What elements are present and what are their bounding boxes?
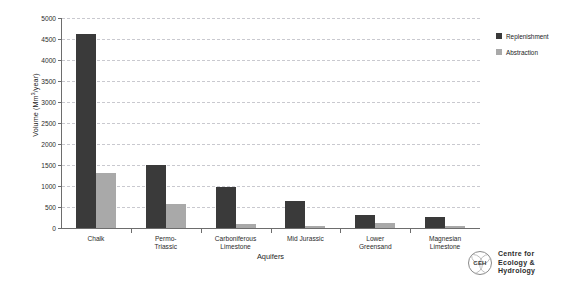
- gridline: [62, 39, 480, 40]
- x-axis-tick-mark: [410, 228, 411, 233]
- gridline: [62, 165, 480, 166]
- legend-item[interactable]: Replenishment: [496, 32, 566, 40]
- legend-swatch-icon: [496, 33, 502, 39]
- y-axis-tick-mark: [58, 102, 62, 103]
- bar-abstraction: [375, 223, 395, 228]
- bar-replenishment: [425, 217, 445, 228]
- bar-group: [355, 18, 395, 228]
- y-axis-tick-label: 2500: [41, 120, 56, 127]
- y-axis-tick-mark: [58, 207, 62, 208]
- gridline: [62, 18, 480, 19]
- gridline: [62, 186, 480, 187]
- x-axis-category-label-line: Carboniferous: [201, 235, 271, 243]
- y-axis-title-prefix: Volume (Mm: [31, 95, 40, 136]
- gridline: [62, 60, 480, 61]
- bar-abstraction: [166, 204, 186, 228]
- y-axis-tick-mark: [58, 39, 62, 40]
- bar-abstraction: [305, 226, 325, 228]
- x-axis-category-label: CarboniferousLimestone: [201, 235, 271, 252]
- bar-replenishment: [216, 187, 236, 228]
- y-axis-tick-mark: [58, 123, 62, 124]
- y-axis-tick-label: 3500: [41, 78, 56, 85]
- ceh-logo: CEH Centre for Ecology & Hydrology: [468, 250, 535, 276]
- y-axis-tick-mark: [58, 81, 62, 82]
- x-axis-tick-mark: [131, 228, 132, 233]
- y-axis-tick-mark: [58, 186, 62, 187]
- y-axis-tick-mark: [58, 165, 62, 166]
- x-axis-category-label-line: Permo-: [131, 235, 201, 243]
- legend-swatch-icon: [496, 49, 502, 55]
- gridline: [62, 81, 480, 82]
- y-axis-title-suffix: /year): [31, 73, 40, 92]
- ceh-logo-mark-icon: CEH: [468, 251, 492, 275]
- x-axis-category-label: LowerGreensand: [340, 235, 410, 252]
- x-axis-category-label-line: Magnesian: [410, 235, 480, 243]
- x-axis-category-label-line: Triassic: [131, 243, 201, 251]
- bar-group: [285, 18, 325, 228]
- y-axis-tick-mark: [58, 60, 62, 61]
- x-axis-category-label-line: Chalk: [61, 235, 131, 243]
- gridline: [62, 144, 480, 145]
- x-axis-category-label-line: Limestone: [201, 243, 271, 251]
- ceh-logo-line-1: Centre for: [498, 250, 535, 259]
- y-axis-tick-label: 4000: [41, 57, 56, 64]
- legend-item-label: Abstraction: [506, 49, 538, 56]
- bar-group: [146, 18, 186, 228]
- bar-replenishment: [285, 201, 305, 228]
- bar-replenishment: [76, 34, 96, 228]
- ceh-logo-wordmark: Centre for Ecology & Hydrology: [498, 250, 535, 276]
- y-axis-tick-mark: [58, 228, 62, 229]
- y-axis-tick-label: 3000: [41, 99, 56, 106]
- legend-item[interactable]: Abstraction: [496, 48, 566, 56]
- bar-replenishment: [146, 165, 166, 228]
- gridline: [62, 207, 480, 208]
- y-axis-tick-label: 500: [45, 204, 56, 211]
- x-axis-category-label-line: Greensand: [340, 243, 410, 251]
- x-axis-category-label: Permo-Triassic: [131, 235, 201, 252]
- x-axis-category-label-line: Lower: [340, 235, 410, 243]
- ceh-logo-line-3: Hydrology: [498, 267, 535, 276]
- bar-group: [216, 18, 256, 228]
- x-axis-category-label: Mid Jurassic: [271, 235, 341, 243]
- ceh-logo-line-2: Ecology &: [498, 259, 535, 268]
- bar-abstraction: [445, 226, 465, 228]
- chart-figure: Volume (Mm3/year) 0500100015002000250030…: [0, 0, 567, 286]
- x-axis-category-label-line: Mid Jurassic: [271, 235, 341, 243]
- gridline: [62, 102, 480, 103]
- x-axis-tick-mark: [201, 228, 202, 233]
- bar-replenishment: [355, 215, 375, 228]
- y-axis-tick-label: 1000: [41, 183, 56, 190]
- y-axis-tick-label: 2000: [41, 141, 56, 148]
- bar-abstraction: [96, 173, 116, 228]
- y-axis-title-superscript: 3: [30, 92, 36, 95]
- x-axis-category-label: Chalk: [61, 235, 131, 243]
- gridline: [62, 123, 480, 124]
- y-axis-tick-label: 1500: [41, 162, 56, 169]
- y-axis-tick-label: 4500: [41, 36, 56, 43]
- y-axis-tick-label: 0: [52, 225, 56, 232]
- chart-legend: ReplenishmentAbstraction: [496, 32, 566, 64]
- bar-group: [425, 18, 465, 228]
- plot-area: 0500100015002000250030003500400045005000…: [61, 18, 480, 229]
- y-axis-tick-mark: [58, 18, 62, 19]
- bar-abstraction: [236, 224, 256, 228]
- x-axis-tick-mark: [340, 228, 341, 233]
- y-axis-tick-label: 5000: [41, 15, 56, 22]
- legend-item-label: Replenishment: [506, 33, 549, 40]
- ceh-logo-mark-text: CEH: [469, 260, 491, 266]
- x-axis-tick-mark: [271, 228, 272, 233]
- x-axis-title: Aquifers: [61, 252, 480, 261]
- bar-group: [76, 18, 116, 228]
- y-axis-tick-mark: [58, 144, 62, 145]
